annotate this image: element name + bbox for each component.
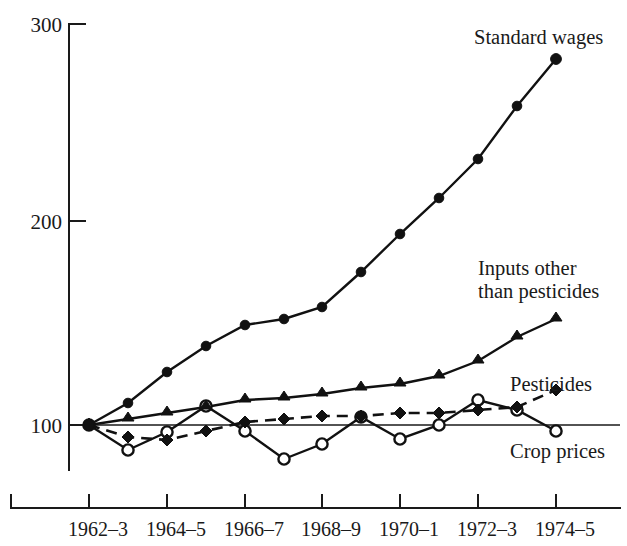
- x-tick-label-1966-7: 1966–7: [224, 518, 284, 540]
- annotation-crop-prices: Crop prices: [510, 440, 605, 463]
- data-point: [512, 101, 522, 111]
- x-tick-label-1974-5: 1974–5: [535, 518, 595, 540]
- data-point: [394, 377, 406, 386]
- annotation-inputs-other-line2: than pesticides: [478, 280, 599, 303]
- line-chart-figure: 300 200 100: [0, 0, 627, 546]
- data-point: [122, 444, 133, 455]
- chart-container: 300 200 100: [0, 0, 627, 546]
- data-point: [123, 398, 133, 408]
- data-point: [240, 320, 250, 330]
- annotation-pesticides: Pesticides: [510, 373, 592, 395]
- annotation-standard-wages: Standard wages: [474, 26, 603, 49]
- x-tick-label-1968-9: 1968–9: [301, 518, 361, 540]
- data-point: [279, 314, 289, 324]
- data-point: [316, 387, 328, 396]
- data-point: [434, 193, 444, 203]
- y-tick-label-200: 200: [31, 210, 63, 234]
- data-point: [433, 407, 445, 419]
- data-point: [161, 406, 173, 415]
- data-point: [395, 229, 405, 239]
- data-point: [551, 54, 562, 65]
- data-point: [201, 341, 211, 351]
- data-point: [162, 367, 172, 377]
- data-point: [550, 425, 561, 436]
- markers-standard-wages: [84, 54, 561, 430]
- data-point: [356, 267, 366, 277]
- data-point: [394, 407, 406, 419]
- x-tick-label-1972-3: 1972–3: [457, 518, 517, 540]
- annotation-inputs-other-line1: Inputs other: [478, 257, 577, 280]
- data-point: [316, 410, 328, 422]
- data-point: [84, 420, 94, 430]
- series-line-standard-wages: [89, 59, 556, 425]
- data-point: [433, 419, 444, 430]
- data-point: [278, 413, 290, 425]
- data-point: [122, 412, 134, 421]
- data-point: [122, 431, 134, 443]
- data-point: [355, 381, 367, 390]
- x-tick-label-1970-1: 1970–1: [379, 518, 439, 540]
- data-point: [316, 438, 327, 449]
- y-tick-label-100: 100: [31, 414, 63, 438]
- data-point: [472, 404, 484, 416]
- data-point: [473, 154, 483, 164]
- data-point: [317, 302, 327, 312]
- y-tick-label-300: 300: [31, 13, 63, 37]
- x-tick-label-1962-3: 1962–3: [68, 518, 128, 540]
- data-point: [239, 393, 251, 402]
- data-point: [200, 425, 212, 437]
- x-tick-label-1964-5: 1964–5: [146, 518, 206, 540]
- data-point: [278, 391, 290, 400]
- data-point: [394, 433, 405, 444]
- data-point: [278, 453, 289, 464]
- data-point: [550, 312, 562, 321]
- markers-crop-prices: [83, 394, 561, 464]
